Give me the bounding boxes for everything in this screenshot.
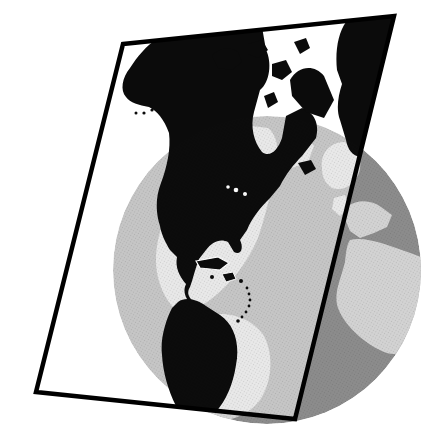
projected-trinidad bbox=[236, 319, 240, 323]
antilles-islet bbox=[249, 299, 252, 302]
aleutian-islet bbox=[150, 108, 153, 111]
antilles-islet bbox=[246, 287, 249, 290]
projected-puerto-rico bbox=[239, 279, 243, 283]
aleutian-islet bbox=[142, 111, 145, 114]
aleutian-islet bbox=[135, 112, 138, 115]
antilles-islet bbox=[245, 311, 248, 314]
antilles-islet bbox=[248, 293, 251, 296]
projected-jamaica bbox=[210, 275, 214, 279]
projection-figure bbox=[0, 0, 430, 445]
antilles-islet bbox=[241, 316, 244, 319]
antilles-islet bbox=[248, 305, 251, 308]
great-lake bbox=[234, 188, 239, 193]
great-lake bbox=[226, 185, 230, 189]
great-lake bbox=[243, 192, 247, 196]
figure-canvas bbox=[0, 0, 430, 445]
